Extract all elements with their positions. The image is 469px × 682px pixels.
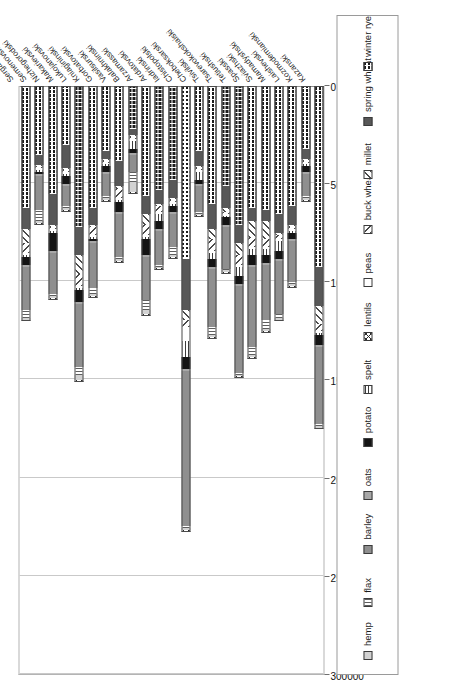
bar-segment-buckwheat (74, 274, 83, 286)
stacked-bar (74, 86, 83, 382)
legend-label: barley (362, 514, 372, 540)
bar-segment-buckwheat (128, 137, 137, 139)
bar-segment-hemp (247, 355, 256, 357)
bar-segment-winterrye (314, 86, 323, 267)
bar-segment-millet (261, 221, 270, 239)
bar-segment-hemp (301, 198, 310, 200)
bar-segment-winterrye (274, 86, 283, 214)
bar-segment-winterrye (74, 86, 83, 227)
stacked-bar (181, 86, 190, 532)
bar-segment-spelt (274, 241, 283, 251)
bar-segment-barley (114, 214, 123, 257)
bar-segment-winterrye (234, 86, 243, 225)
legend-swatch-springwheat-icon (363, 117, 372, 126)
bar-segment-lentils (61, 210, 70, 212)
bar-segment-barley (88, 243, 97, 288)
legend-label: spelt (362, 360, 372, 380)
bar-segment-buckwheat (101, 161, 110, 163)
bar-segment-millet (221, 208, 230, 212)
bar-row (34, 86, 43, 674)
bar-segment-spelt (21, 255, 30, 257)
legend-item-potato[interactable]: potato (362, 394, 372, 447)
bar-segment-barley (168, 214, 177, 247)
bar-segment-lentils (34, 223, 43, 225)
bar-segment-potato (207, 259, 216, 267)
axis-tick (324, 576, 329, 577)
legend-item-winterrye[interactable]: winter rye (362, 16, 372, 71)
bar-segment-potato (74, 290, 83, 302)
legend-item-peas[interactable]: peas (362, 234, 372, 287)
category-label: Gorbatovski (59, 45, 94, 84)
bar-segment-barley (247, 267, 256, 347)
bar-segment-lentils (274, 320, 283, 322)
bar-segment-lentils (194, 215, 203, 217)
legend-item-flax[interactable]: flax (362, 554, 372, 607)
bar-segment-peas (234, 265, 243, 267)
legend-item-hemp[interactable]: hemp (362, 607, 372, 660)
bar-segment-millet (234, 243, 243, 255)
bar-segment-spelt (181, 341, 190, 357)
bar-segment-buckwheat (261, 239, 270, 247)
bar-segment-lentils (261, 331, 270, 333)
bar-segment-springwheat (301, 149, 310, 159)
bar-segment-flax (314, 424, 323, 426)
bar-segment-hemp (274, 318, 283, 320)
bar-row (287, 86, 296, 674)
bar-segment-peas (128, 139, 137, 141)
bar-segment-oats (207, 267, 216, 269)
bar-segment-lentils (301, 200, 310, 202)
category-label: Sviazhski (225, 52, 254, 84)
bar-segment-hemp (128, 182, 137, 192)
bar-segment-lentils (287, 286, 296, 288)
stacked-bar (154, 86, 163, 270)
bar-segment-buckwheat (314, 324, 323, 332)
stacked-bar (274, 86, 283, 322)
bar-segment-springwheat (274, 214, 283, 234)
bar-segment-oats (88, 241, 97, 243)
legend-item-buckwheat[interactable]: buck wheat (362, 179, 372, 234)
bar-segment-barley (141, 257, 150, 300)
bar-segment-potato (168, 206, 177, 212)
legend-item-oats[interactable]: oats (362, 447, 372, 500)
bar-segment-winterrye (114, 86, 123, 161)
bar-segment-millet (314, 306, 323, 324)
legend-item-lentils[interactable]: lentils (362, 287, 372, 340)
legend-item-millet[interactable]: millet (362, 126, 372, 179)
bar-segment-barley (181, 371, 190, 526)
bar-segment-spelt (74, 288, 83, 290)
bar-segment-oats (234, 284, 243, 286)
bar-segment-winterrye (21, 86, 30, 208)
legend-label: buck wheat (362, 172, 372, 220)
bar-segment-winterrye (221, 86, 230, 186)
bar-segment-buckwheat (168, 200, 177, 202)
bar-segment-flax (168, 247, 177, 255)
bar-segment-oats (114, 212, 123, 214)
bar-row (74, 86, 83, 674)
bar-segment-potato (314, 335, 323, 345)
bar-segment-springwheat (234, 225, 243, 243)
bar-segment-barley (128, 155, 137, 173)
bar-segment-potato (34, 172, 43, 174)
bar-segment-lentils (247, 357, 256, 359)
legend-swatch-winterrye-icon (363, 62, 372, 71)
legend-item-spelt[interactable]: spelt (362, 341, 372, 394)
bar-segment-millet (128, 135, 137, 137)
bar-segment-springwheat (74, 227, 83, 254)
bar-segment-millet (61, 168, 70, 170)
category-label: Tsivilski (176, 57, 201, 84)
bar-segment-peas (48, 229, 57, 231)
bar-segment-buckwheat (194, 168, 203, 170)
bar-segment-winterrye (247, 86, 256, 208)
bar-segment-hemp (154, 267, 163, 269)
bar-row (274, 86, 283, 674)
bar-segment-flax (101, 196, 110, 198)
bar-segment-hemp (88, 294, 97, 296)
bar-segment-potato (48, 233, 57, 251)
bar-segment-potato (61, 176, 70, 184)
bar-segment-spelt (154, 214, 163, 222)
legend-item-springwheat[interactable]: spring wheat (362, 71, 372, 126)
bar-segment-peas (74, 286, 83, 288)
bar-segment-peas (194, 170, 203, 172)
legend-item-barley[interactable]: barley (362, 500, 372, 553)
bar-segment-spelt (221, 216, 230, 218)
